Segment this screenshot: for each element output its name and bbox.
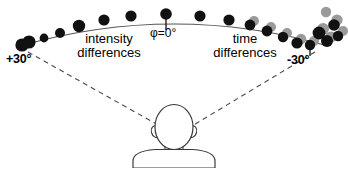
dashed-sight-line-left	[28, 52, 160, 126]
speaker-dot	[333, 31, 343, 41]
speaker-dot	[40, 34, 49, 43]
speaker-dot	[160, 8, 172, 20]
label-intensity-differences: intensity differences	[61, 32, 157, 60]
speaker-dot	[321, 35, 333, 47]
label-time-differences: time differences	[201, 32, 289, 60]
speaker-dot	[245, 20, 256, 31]
speaker-dot	[321, 7, 331, 17]
figure-canvas: +30° -30° φ=0° intensity differences tim…	[0, 0, 348, 168]
speaker-dot	[328, 19, 340, 31]
speaker-dot	[223, 14, 234, 25]
label-intensity-line1: intensity	[61, 32, 157, 46]
shoulders-shape	[133, 150, 215, 169]
skull-shape	[155, 105, 193, 150]
label-time-line2: differences	[201, 46, 289, 60]
label-right-angle: -30°	[287, 54, 309, 68]
head-rear-icon	[133, 105, 215, 169]
speaker-dot	[194, 10, 205, 21]
label-left-angle: +30°	[6, 53, 31, 67]
speaker-dot	[125, 10, 136, 21]
speaker-dot	[305, 40, 315, 50]
label-intensity-line2: differences	[61, 46, 157, 60]
speaker-dot	[22, 35, 35, 48]
speaker-dot	[73, 20, 85, 32]
speaker-dot	[98, 14, 109, 25]
speaker-dot	[291, 37, 302, 48]
label-time-line1: time	[201, 32, 289, 46]
